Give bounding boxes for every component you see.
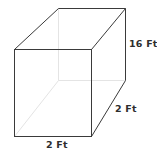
width-label: 2 Ft bbox=[46, 140, 68, 150]
edge-top-right-depth bbox=[92, 9, 126, 50]
hidden-edge-bottom-left-depth bbox=[15, 81, 59, 137]
visible-edges bbox=[15, 9, 126, 137]
edge-top-left-depth bbox=[15, 9, 59, 50]
cuboid-drawing bbox=[0, 0, 157, 156]
front-face bbox=[15, 50, 92, 137]
hidden-edges bbox=[15, 9, 126, 137]
box-diagram: 16 Ft 2 Ft 2 Ft bbox=[0, 0, 157, 156]
depth-label: 2 Ft bbox=[115, 104, 137, 114]
height-label: 16 Ft bbox=[129, 39, 157, 49]
